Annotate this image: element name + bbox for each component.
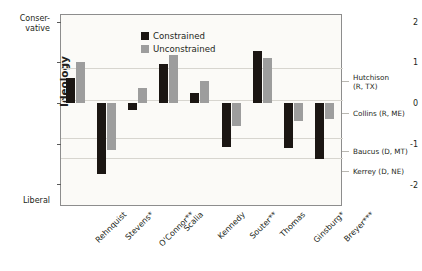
x-label-6: Thomas — [278, 210, 307, 239]
bar-group — [219, 15, 250, 205]
x-label-5: Souter** — [248, 210, 279, 241]
axis-top-label: Conser- vative — [4, 14, 50, 33]
x-label-4: Kennedy — [217, 210, 248, 241]
bar-unconstrained-0 — [76, 62, 85, 103]
bar-group — [94, 15, 125, 205]
axis-bottom-label: Liberal — [4, 196, 50, 205]
reference-label-1: Collins (R, ME) — [353, 109, 405, 118]
bar-unconstrained-8 — [325, 103, 334, 119]
reference-tick-1 — [342, 113, 349, 114]
bar-unconstrained-7 — [294, 103, 303, 121]
bar-constrained-4 — [190, 93, 199, 103]
chart-figure: Conser- vative Liberal 2 1 0 -1 -2 Ideol… — [0, 0, 422, 271]
reference-label-0: Hutchison (R, TX) — [353, 73, 389, 91]
bar-constrained-5 — [222, 103, 231, 147]
reference-tick-3 — [342, 171, 349, 172]
reference-line-labels: Hutchison (R, TX)Collins (R, ME)Baucus (… — [342, 14, 422, 206]
reference-tick-2 — [342, 151, 349, 152]
bar-unconstrained-6 — [263, 58, 272, 103]
y-tickmark-4 — [57, 184, 61, 185]
x-label-8: Breyer*** — [342, 210, 376, 244]
x-label-1: Stevens* — [124, 210, 156, 242]
bar-group — [250, 15, 281, 205]
bar-constrained-7 — [284, 103, 293, 148]
bar-unconstrained-1 — [107, 103, 116, 150]
legend-item-unconstrained: Unconstrained — [141, 44, 215, 54]
bar-unconstrained-5 — [232, 103, 241, 126]
bar-group — [281, 15, 312, 205]
y-tickmark-3 — [57, 144, 61, 145]
y-tickmark-1 — [57, 62, 61, 63]
bar-unconstrained-4 — [200, 81, 209, 103]
legend-swatch-unconstrained — [141, 45, 149, 53]
bar-constrained-3 — [159, 64, 168, 103]
bar-constrained-0 — [66, 78, 75, 103]
bar-constrained-6 — [253, 51, 262, 103]
bar-group — [63, 15, 94, 205]
bar-constrained-1 — [97, 103, 106, 174]
x-label-7: Ginsburg* — [311, 210, 346, 245]
bar-constrained-8 — [315, 103, 324, 159]
legend-item-constrained: Constrained — [141, 31, 215, 41]
legend-label-unconstrained: Unconstrained — [153, 44, 215, 54]
reference-tick-0 — [342, 81, 349, 82]
legend-swatch-constrained — [141, 32, 149, 40]
reference-label-2: Baucus (D, MT) — [353, 147, 408, 156]
bar-unconstrained-3 — [169, 55, 178, 103]
bar-unconstrained-2 — [138, 88, 147, 103]
x-label-0: Rehnquist — [94, 210, 129, 245]
legend-label-constrained: Constrained — [153, 31, 205, 41]
plot-area: Ideology Constrained Unconstrained — [60, 14, 342, 206]
chart-legend: Constrained Unconstrained — [141, 31, 215, 57]
y-tickmark-2 — [57, 103, 61, 104]
reference-label-3: Kerrey (D, NE) — [353, 167, 404, 176]
y-tickmark-0 — [57, 22, 61, 23]
bar-constrained-2 — [128, 103, 137, 110]
x-axis-labels: RehnquistStevens*O'Connor**ScaliaKennedy… — [60, 206, 342, 271]
bar-group — [312, 15, 343, 205]
